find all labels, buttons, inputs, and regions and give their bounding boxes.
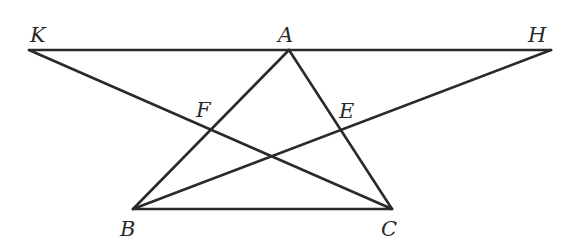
segment-KC (29, 50, 392, 209)
label-E: E (338, 99, 354, 123)
label-A: A (276, 23, 293, 47)
geometry-diagram: K A H F E B C (0, 0, 572, 248)
label-F: F (195, 98, 212, 122)
segment-BH (133, 50, 551, 209)
label-H: H (527, 23, 547, 47)
label-B: B (119, 217, 135, 241)
label-K: K (29, 23, 47, 47)
label-C: C (381, 217, 397, 241)
diagram-canvas: K A H F E B C (0, 0, 572, 248)
